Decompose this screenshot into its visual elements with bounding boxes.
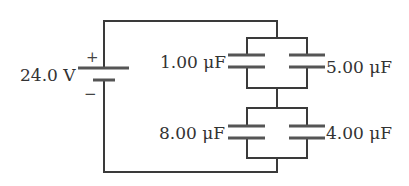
circuit-diagram: 24.0 V + − 1.00 μF 5.00 μF 8.00 μF 4.00 … bbox=[0, 0, 409, 186]
battery-minus-sign: − bbox=[84, 85, 97, 103]
upper-parallel-block bbox=[228, 38, 325, 108]
capacitor-label-c4: 4.00 μF bbox=[326, 123, 392, 143]
capacitor-label-c3: 8.00 μF bbox=[159, 123, 225, 143]
battery-voltage-label: 24.0 V bbox=[20, 65, 76, 85]
capacitor-icon bbox=[228, 126, 265, 138]
battery-plus-sign: + bbox=[86, 48, 99, 66]
capacitor-icon bbox=[289, 55, 325, 67]
capacitor-label-c1: 1.00 μF bbox=[160, 52, 226, 72]
capacitor-icon bbox=[289, 126, 325, 138]
capacitor-label-c2: 5.00 μF bbox=[326, 57, 392, 77]
capacitor-icon bbox=[228, 55, 265, 67]
lower-parallel-block bbox=[228, 108, 325, 158]
battery-icon bbox=[78, 68, 129, 80]
